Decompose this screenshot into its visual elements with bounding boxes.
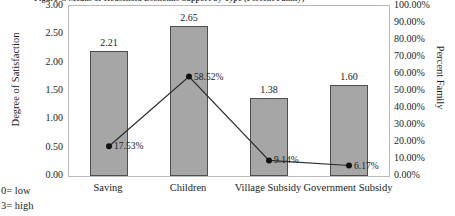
category-label: Government Subsidy bbox=[293, 182, 403, 193]
line-marker bbox=[266, 157, 272, 163]
left-tick-label: 2.00 bbox=[46, 57, 64, 67]
right-tick-label: 90.00% bbox=[394, 17, 425, 27]
right-tick-label: 10.00% bbox=[394, 153, 425, 163]
plot-inner: 2.212.651.381.60 17.53%58.52%9.14%6.17% bbox=[69, 6, 389, 176]
line-value-label: 9.14% bbox=[274, 156, 299, 166]
footnote-low: 0= low bbox=[1, 185, 31, 196]
right-tick-label: 70.00% bbox=[394, 51, 425, 61]
right-tick-label: 100.00% bbox=[394, 0, 430, 10]
line-path bbox=[109, 77, 349, 166]
plot-area: 2.212.651.381.60 17.53%58.52%9.14%6.17% bbox=[68, 5, 390, 177]
left-tick-label: 2.50 bbox=[46, 28, 64, 38]
line-value-label: 6.17% bbox=[354, 162, 379, 172]
right-tick-label: 40.00% bbox=[394, 102, 425, 112]
left-tick-label: 0.50 bbox=[46, 142, 64, 152]
chart-title: Figure 4. Means of Household Economic Su… bbox=[34, 0, 334, 3]
left-tick-label: 1.00 bbox=[46, 113, 64, 123]
right-tick-label: 80.00% bbox=[394, 34, 425, 44]
left-tick-label: 3.00 bbox=[46, 0, 64, 10]
chart-container: Figure 4. Means of Household Economic Su… bbox=[0, 0, 455, 216]
right-tick-label: 0.00% bbox=[394, 170, 420, 180]
footnote-high: 3= high bbox=[1, 200, 33, 211]
left-tick-label: 1.50 bbox=[46, 85, 64, 95]
line-marker bbox=[186, 74, 192, 80]
line-marker bbox=[106, 143, 112, 149]
right-tick-label: 50.00% bbox=[394, 85, 425, 95]
line-value-label: 17.53% bbox=[114, 142, 143, 152]
right-tick-label: 30.00% bbox=[394, 119, 425, 129]
right-tick-label: 60.00% bbox=[394, 68, 425, 78]
right-tick-label: 20.00% bbox=[394, 136, 425, 146]
line-marker bbox=[346, 163, 352, 169]
left-tick-label: 0.00 bbox=[46, 170, 64, 180]
line-value-label: 58.52% bbox=[194, 73, 223, 83]
